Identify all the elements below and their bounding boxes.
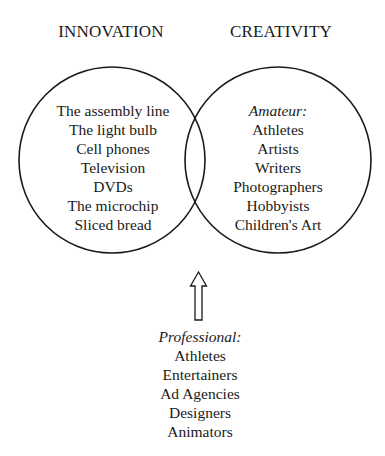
- innovation-list: The assembly line The light bulb Cell ph…: [28, 101, 198, 234]
- list-item: Television: [28, 158, 198, 177]
- list-item: Photographers: [193, 177, 363, 196]
- list-item: Artists: [193, 139, 363, 158]
- list-item: Hobbyists: [193, 196, 363, 215]
- list-item: Writers: [193, 158, 363, 177]
- professional-list: Professional: Athletes Entertainers Ad A…: [115, 327, 285, 441]
- amateur-label: Amateur:: [193, 101, 363, 120]
- list-item: The assembly line: [28, 101, 198, 120]
- list-item: Entertainers: [115, 365, 285, 384]
- list-item: Sliced bread: [28, 215, 198, 234]
- list-item: The microchip: [28, 196, 198, 215]
- list-item: Animators: [115, 422, 285, 441]
- list-item: Children's Art: [193, 215, 363, 234]
- professional-label: Professional:: [115, 327, 285, 346]
- up-arrow-icon: [191, 272, 207, 320]
- list-item: DVDs: [28, 177, 198, 196]
- list-item: Designers: [115, 403, 285, 422]
- list-item: Cell phones: [28, 139, 198, 158]
- list-item: Athletes: [193, 120, 363, 139]
- creativity-list: Amateur: Athletes Artists Writers Photog…: [193, 101, 363, 234]
- list-item: The light bulb: [28, 120, 198, 139]
- list-item: Athletes: [115, 346, 285, 365]
- list-item: Ad Agencies: [115, 384, 285, 403]
